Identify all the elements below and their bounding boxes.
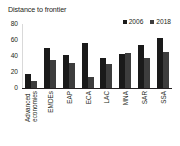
bar-group [116, 24, 135, 88]
y-tick-40: 40 [11, 53, 18, 60]
y-tick-0: 0 [14, 85, 18, 92]
bar-group [41, 24, 60, 88]
x-label-cell: MNA [116, 90, 135, 144]
x-label-cell: SAR [135, 90, 154, 144]
chart-title: Distance to frontier [8, 5, 66, 14]
legend-swatch-2018 [150, 20, 154, 24]
x-axis-label: EAP [65, 91, 72, 104]
x-axis-baseline [22, 88, 172, 89]
x-axis-label: Advancedeconomies [24, 91, 38, 122]
x-axis-label: MNA [122, 91, 129, 105]
x-axis-labels: AdvancedeconomiesEMDEsEAPECALACMNASARSSA [22, 90, 172, 144]
x-label-cell: Advancedeconomies [22, 90, 41, 144]
x-axis-label: SSA [159, 91, 166, 104]
bar-group [135, 24, 154, 88]
bar-group [60, 24, 79, 88]
y-tick-60: 60 [11, 37, 18, 44]
x-label-cell: SSA [153, 90, 172, 144]
x-label-cell: EAP [60, 90, 79, 144]
bar-group [22, 24, 41, 88]
y-tick-20: 20 [11, 69, 18, 76]
legend-swatch-2006 [123, 20, 127, 24]
chart-container: Distance to frontier 2006 2018 80 60 40 … [0, 0, 180, 146]
bar [106, 64, 112, 88]
x-axis-label-line: EAP [65, 91, 72, 104]
x-axis-label: LAC [103, 91, 110, 103]
y-tick-80: 80 [11, 21, 18, 28]
bar-groups [22, 24, 172, 88]
x-axis-label-line: LAC [103, 91, 110, 103]
x-label-cell: LAC [97, 90, 116, 144]
bar [50, 60, 56, 88]
x-axis-label-line: SSA [159, 91, 166, 104]
x-label-cell: ECA [78, 90, 97, 144]
bar [125, 53, 131, 88]
x-axis-label: SAR [140, 91, 147, 104]
bar-group [78, 24, 97, 88]
bar [69, 63, 75, 88]
x-axis-label-line: SAR [140, 91, 147, 104]
x-axis-label-line: EMDEs [47, 91, 54, 113]
bar-group [153, 24, 172, 88]
x-label-cell: EMDEs [41, 90, 60, 144]
plot-area [22, 24, 172, 88]
bar-group [97, 24, 116, 88]
x-axis-label-line: ECA [84, 91, 91, 104]
x-axis-label: ECA [84, 91, 91, 104]
x-axis-label: EMDEs [47, 91, 54, 113]
bar [31, 81, 37, 88]
bar [144, 58, 150, 88]
y-axis: 80 60 40 20 0 [0, 24, 20, 88]
bar [163, 52, 169, 88]
bar [88, 77, 94, 88]
x-axis-label-line: economies [31, 91, 38, 122]
x-axis-label-line: MNA [122, 91, 129, 105]
